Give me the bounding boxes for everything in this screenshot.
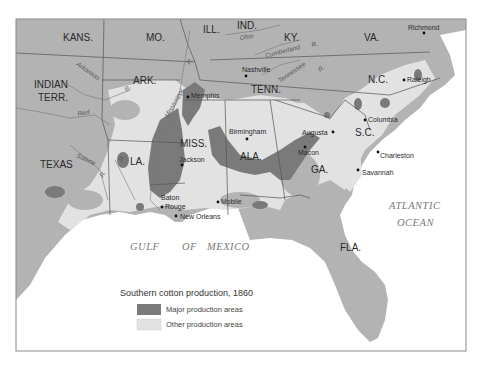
state-label-va: VA.: [364, 32, 379, 43]
state-label-ga: GA.: [311, 164, 328, 175]
atlantic-label-1: ATLANTIC: [388, 200, 441, 211]
city-label-raleigh: Raleigh: [407, 76, 431, 84]
city-label-columbia: Columbia: [368, 116, 398, 123]
state-label-ill: ILL.: [203, 24, 220, 35]
legend: Southern cotton production, 1860 Major p…: [120, 288, 253, 330]
state-label-indian-terr: INDIAN: [34, 79, 68, 90]
state-label-ark: ARK.: [133, 75, 156, 86]
city-label-charleston: Charleston: [380, 152, 414, 159]
state-label-sc: S.C.: [355, 127, 374, 138]
legend-label-other: Other production areas: [166, 320, 243, 329]
state-label-texas: TEXAS: [40, 159, 73, 170]
legend-label-major: Major production areas: [166, 305, 243, 314]
cotton-production-map: KANS. MO. ILL. IND. KY. VA. INDIAN TERR.…: [0, 0, 479, 366]
state-label-ind: IND.: [237, 20, 257, 31]
state-label-tenn: TENN.: [251, 84, 281, 95]
state-label-ky: KY.: [284, 32, 299, 43]
city-label-augusta: Augusta: [302, 129, 328, 137]
legend-swatch-major: [137, 304, 161, 315]
gulf-label-1: GULF: [130, 241, 160, 252]
state-label-kans: KANS.: [63, 32, 93, 43]
city-label-richmond: Richmond: [408, 24, 440, 31]
city-label-new-orleans: New Orleans: [180, 213, 221, 220]
city-label-nashville: Nashville: [242, 66, 271, 73]
state-label-miss: MISS.: [180, 138, 207, 149]
atlantic-label-2: OCEAN: [397, 217, 434, 228]
state-label-nc: N.C.: [368, 74, 388, 85]
legend-swatch-other: [137, 319, 161, 330]
city-label-baton-rouge-2: Rouge: [165, 203, 186, 211]
city-label-macon: Macon: [298, 149, 319, 156]
city-label-baton-rouge: Baton: [161, 194, 179, 201]
state-label-ala: ALA.: [240, 151, 262, 162]
city-label-memphis: Memphis: [191, 92, 220, 100]
state-label-la: LA.: [130, 156, 145, 167]
state-label-indian-terr-2: TERR.: [38, 92, 68, 103]
city-label-savannah: Savannah: [362, 169, 394, 176]
state-label-fla: FLA.: [340, 242, 361, 253]
city-label-birmingham: Birmingham: [229, 128, 267, 136]
city-label-mobile: Mobile: [221, 198, 242, 205]
gulf-label-3: MEXICO: [206, 241, 250, 252]
gulf-label-2: OF: [182, 241, 197, 252]
state-label-mo: MO.: [146, 32, 165, 43]
legend-title: Southern cotton production, 1860: [120, 288, 253, 298]
city-label-jackson: Jackson: [179, 156, 205, 163]
